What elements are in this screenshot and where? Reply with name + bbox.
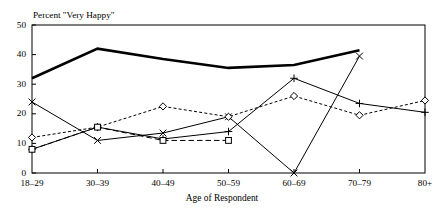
- y-axis-tick-label: 50: [0, 21, 26, 30]
- y-axis-tick-label: 40: [0, 50, 26, 59]
- x-axis-title: Age of Respondent: [0, 193, 444, 203]
- x-axis-tick-label: 40–49: [152, 179, 175, 188]
- x-axis-tick-label: 60–69: [283, 179, 306, 188]
- x-axis-tick-label: 30–39: [86, 179, 109, 188]
- y-axis-tick-label: 10: [0, 139, 26, 148]
- y-axis-tick-label: 0: [0, 169, 26, 178]
- axis-ticks: [32, 25, 360, 173]
- y-axis-tick-label: 20: [0, 109, 26, 118]
- y-axis-tick-label: 30: [0, 80, 26, 89]
- x-axis-tick-label: 50–59: [217, 179, 240, 188]
- chart-figure: Percent "Very Happy" 01020304050 18–2930…: [0, 0, 444, 212]
- x-axis-tick-label: 80+: [418, 179, 432, 188]
- x-axis-tick-label: 18–29: [21, 179, 44, 188]
- data-series-group: [28, 49, 429, 177]
- plot-frame: [32, 25, 425, 173]
- x-axis-tick-label: 70–79: [348, 179, 371, 188]
